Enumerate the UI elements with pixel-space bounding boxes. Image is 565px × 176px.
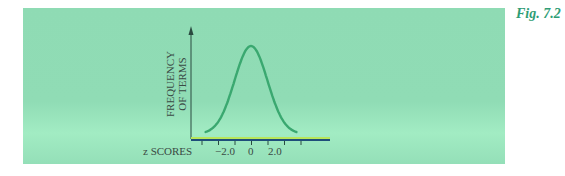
x-axis-title: z SCORES xyxy=(143,145,192,157)
y-axis-label-line2: OF TERMS xyxy=(176,51,188,117)
x-tick-label-neg2: −2.0 xyxy=(215,145,235,157)
y-axis-label-line1: FREQUENCY xyxy=(164,51,176,117)
x-tick-label-0: 0 xyxy=(248,145,254,157)
arrow-up-icon xyxy=(189,26,194,35)
x-axis xyxy=(191,139,330,141)
y-axis-label: FREQUENCY OF TERMS xyxy=(164,51,188,117)
x-axis-highlight xyxy=(191,137,330,139)
x-tick-label-2: 2.0 xyxy=(268,145,282,157)
normal-curve xyxy=(206,46,297,132)
chart-svg xyxy=(0,0,565,176)
